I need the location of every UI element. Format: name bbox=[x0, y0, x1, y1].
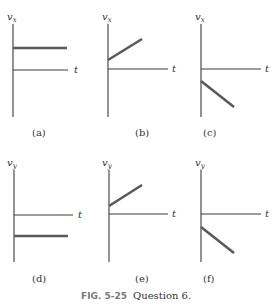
velocity-line bbox=[201, 227, 234, 253]
y-axis-label: vy bbox=[102, 157, 113, 170]
panel-d: vy t (d) bbox=[7, 157, 83, 284]
y-axis-label: vy bbox=[195, 157, 206, 170]
panel-f: vy t (f) bbox=[195, 157, 270, 284]
figure-caption: FIG. 5-25 Question 6. bbox=[81, 290, 191, 301]
panel-label: (c) bbox=[203, 127, 217, 138]
figure-5-25: vx t (a) vx t (b) vx t (c) vy t (d) vy bbox=[0, 0, 280, 307]
panel-label: (f) bbox=[203, 273, 215, 284]
velocity-line bbox=[109, 185, 142, 206]
x-axis-label: t bbox=[265, 63, 270, 74]
x-axis-label: t bbox=[265, 208, 270, 219]
velocity-line bbox=[201, 81, 234, 107]
panel-c: vx t (c) bbox=[195, 11, 270, 138]
y-axis-label: vx bbox=[195, 11, 205, 24]
panel-label: (a) bbox=[32, 127, 46, 138]
y-axis-label: vx bbox=[102, 11, 112, 24]
velocity-line bbox=[108, 39, 142, 60]
caption-figure-number: FIG. 5-25 bbox=[81, 291, 127, 301]
x-axis-label: t bbox=[78, 209, 83, 220]
panel-a: vx t (a) bbox=[7, 11, 79, 138]
panel-label: (b) bbox=[135, 127, 149, 138]
panel-label: (d) bbox=[32, 273, 46, 284]
x-axis-label: t bbox=[172, 208, 177, 219]
panel-e: vy t (e) bbox=[102, 157, 177, 284]
panel-label: (e) bbox=[135, 273, 149, 284]
y-axis-label: vx bbox=[7, 11, 17, 24]
caption-text: Question 6. bbox=[133, 290, 191, 301]
y-axis-label: vy bbox=[7, 157, 18, 170]
x-axis-label: t bbox=[74, 64, 79, 75]
x-axis-label: t bbox=[172, 63, 177, 74]
panel-b: vx t (b) bbox=[102, 11, 177, 138]
